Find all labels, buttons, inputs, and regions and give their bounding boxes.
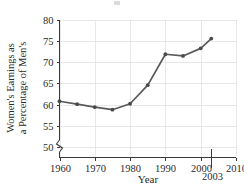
data-point bbox=[93, 105, 97, 109]
data-point bbox=[111, 108, 115, 112]
y-tick-label: 65 bbox=[43, 78, 54, 89]
chart-canvas: 50556065707580 196019701980199020002010 … bbox=[0, 0, 244, 188]
y-tick-label: 60 bbox=[43, 100, 54, 111]
y-tick-label: 70 bbox=[43, 57, 54, 68]
x-axis-title: Year bbox=[138, 173, 159, 185]
y-tick-label: 55 bbox=[43, 121, 54, 132]
chart-figure: 50556065707580 196019701980199020002010 … bbox=[0, 0, 244, 188]
x-tick-label: 2010 bbox=[226, 163, 244, 174]
data-point bbox=[199, 46, 203, 50]
x-tick-label: 1980 bbox=[120, 163, 141, 174]
cropped-title-remnant bbox=[114, 1, 120, 5]
data-point bbox=[181, 54, 185, 58]
y-tick-label: 50 bbox=[43, 142, 54, 153]
data-point bbox=[146, 83, 150, 87]
y-axis-title-line-1: Women's Earnings as bbox=[5, 43, 16, 133]
year-2003-label: 2003 bbox=[202, 171, 223, 182]
y-axis-title-line-2: a Percentage of Men's bbox=[17, 42, 28, 135]
data-point bbox=[58, 99, 62, 103]
y-tick-label: 80 bbox=[43, 15, 54, 26]
data-point bbox=[164, 52, 168, 56]
x-tick-label: 1970 bbox=[85, 163, 106, 174]
x-tick-label: 1960 bbox=[50, 163, 71, 174]
y-tick-label: 75 bbox=[43, 36, 54, 47]
chart-background bbox=[0, 0, 244, 188]
x-tick-label: 1990 bbox=[155, 163, 176, 174]
data-point bbox=[75, 102, 79, 106]
data-point bbox=[209, 37, 213, 41]
data-point bbox=[128, 102, 132, 106]
